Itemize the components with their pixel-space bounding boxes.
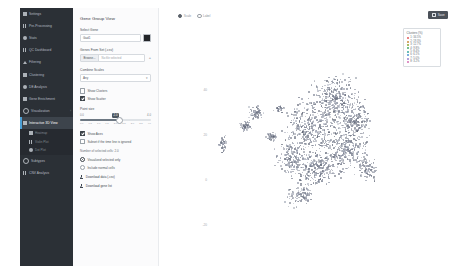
slider-tick: 1.0 xyxy=(97,122,100,125)
sidebar-item-label: Subtypes xyxy=(31,159,45,163)
checkbox-show-clusters-label: Show Clusters xyxy=(87,89,107,93)
eye-icon xyxy=(23,108,29,114)
bars-icon xyxy=(23,24,27,28)
radio-selected-only-label: Visualized selected only xyxy=(87,158,120,162)
flag-icon xyxy=(23,97,27,101)
slider-fill xyxy=(80,119,117,122)
combine-scales-select[interactable]: Any ▾ xyxy=(80,74,151,83)
dot-icon xyxy=(29,148,33,152)
sidebar-item-label: Gene Enrichment xyxy=(29,97,55,101)
combine-scales-value: Any xyxy=(83,76,88,80)
combine-scales-label: Combine Scales xyxy=(80,68,151,72)
checkbox-show-axes[interactable]: Show Axes xyxy=(80,131,151,136)
sidebar-item-label: Interactive 3D View xyxy=(29,121,58,125)
application-window: SettingsPre-ProcessingStatsQC DashboardF… xyxy=(20,8,452,266)
sidebar-item-cnv-analysis[interactable]: CNV Analysis xyxy=(20,167,73,179)
browse-button[interactable]: Browse... xyxy=(81,55,99,62)
checkbox-checked-icon xyxy=(80,96,85,101)
sidebar-item-label: Heatmap xyxy=(35,131,47,135)
gene-set-field: Genes From Set (.csv) Browse... No file … xyxy=(80,48,151,62)
point-size-slider[interactable] xyxy=(80,119,151,122)
sidebar-item-label: Violin Plot xyxy=(35,140,49,144)
add-file-icon[interactable]: + xyxy=(149,55,151,60)
legend-label: 8: 3.2% xyxy=(410,60,419,63)
combine-scales-field: Combine Scales Any ▾ xyxy=(80,68,151,82)
slider-tick: 4.0 xyxy=(148,122,151,125)
legend-item[interactable]: 8: 3.2% xyxy=(407,60,438,63)
sidebar-item-subtypes[interactable]: Subtypes xyxy=(20,155,73,167)
file-name-text: No file selected xyxy=(99,56,121,60)
sidebar-item-label: Dot Plot xyxy=(35,148,46,152)
sidebar-item-settings[interactable]: Settings xyxy=(20,8,73,20)
sidebar-item-label: DE Analysis xyxy=(29,85,47,89)
slider-ticks: 0.00.51.01.52.02.53.03.54.0 xyxy=(80,122,151,125)
point-size-field: Point size 0.0 2.0 4.0 0.00.51.01.52.02.… xyxy=(80,107,151,125)
checkbox-subset[interactable]: Subset if the time line is ignored xyxy=(80,139,151,144)
download-gene-list-button[interactable]: Download gene list xyxy=(80,184,151,188)
download-data-label: Download data (.csv) xyxy=(86,175,115,179)
checkbox-show-scatter[interactable]: Show Scatter xyxy=(80,96,151,101)
sidebar-item-stats[interactable]: Stats xyxy=(20,32,73,44)
cube-icon xyxy=(23,121,27,125)
sidebar-item-filtering[interactable]: Filtering xyxy=(20,56,73,68)
scatter-plot-area[interactable]: ScaleLabel Save 40200-20 Clusters (%) 1:… xyxy=(159,8,452,266)
point-size-max: 4.0 xyxy=(147,113,151,118)
radio-include-normal[interactable]: Include normal cells xyxy=(80,165,151,170)
sidebar-item-visualization[interactable]: Visualization› xyxy=(20,105,73,117)
select-gene-input[interactable]: Gad1 xyxy=(80,34,141,42)
user-icon xyxy=(23,36,27,40)
slider-tick: 3.5 xyxy=(139,122,142,125)
control-panel: Gene Group View Select Gene Gad1 Genes F… xyxy=(73,8,159,266)
sidebar-item-clustering[interactable]: Clustering xyxy=(20,68,73,80)
download-icon xyxy=(80,175,83,179)
selected-count-note: Number of selected cells: 2.0 xyxy=(80,149,151,153)
ring-icon xyxy=(23,158,29,164)
grid-icon xyxy=(23,73,27,77)
sidebar-item-qc-dashboard[interactable]: QC Dashboard xyxy=(20,44,73,56)
panel-title: Gene Group View xyxy=(80,16,151,21)
sidebar-item-de-analysis[interactable]: DE Analysis xyxy=(20,81,73,93)
sidebar-item-label: CNV Analysis xyxy=(29,171,49,175)
sidebar-item-pre-processing[interactable]: Pre-Processing xyxy=(20,20,73,32)
radio-selected-only[interactable]: Visualized selected only xyxy=(80,157,151,162)
legend-color-dot xyxy=(407,58,409,60)
slider-tick: 1.5 xyxy=(105,122,108,125)
sidebar-item-heatmap[interactable]: Heatmap xyxy=(20,129,73,138)
legend-title: Clusters (%) xyxy=(407,31,438,35)
select-gene-label: Select Gene xyxy=(80,28,151,32)
point-size-min: 0.0 xyxy=(80,113,84,118)
gene-color-swatch[interactable] xyxy=(143,34,152,43)
sidebar-item-label: Pre-Processing xyxy=(29,24,52,28)
filter-icon xyxy=(23,61,27,64)
sidebar-item-dot-plot[interactable]: Dot Plot xyxy=(20,146,73,155)
sidebar-item-label: QC Dashboard xyxy=(29,48,51,52)
checkbox-subset-label: Subset if the time line is ignored xyxy=(87,140,131,144)
radio-checked-icon xyxy=(80,157,85,162)
cluster-legend: Clusters (%) 1: 34.5%2: 19.3%3: 12.7%4: … xyxy=(403,28,441,67)
slider-handle[interactable] xyxy=(116,117,123,124)
legend-color-dot xyxy=(407,51,409,53)
sidebar-item-interactive-3d-view[interactable]: Interactive 3D View xyxy=(20,117,73,129)
sidebar-item-label: Stats xyxy=(29,36,37,40)
sidebar-item-label: Clustering xyxy=(29,73,44,77)
download-gene-list-label: Download gene list xyxy=(86,184,112,188)
legend-color-dot xyxy=(407,54,409,56)
point-size-label: Point size xyxy=(80,107,151,111)
sidebar-item-violin-plot[interactable]: Violin Plot xyxy=(20,138,73,147)
chart-icon xyxy=(23,48,27,52)
chevron-down-icon: ▾ xyxy=(146,77,148,80)
download-data-button[interactable]: Download data (.csv) xyxy=(80,175,151,179)
grid-icon xyxy=(29,131,33,135)
checkbox-show-axes-label: Show Axes xyxy=(87,132,102,136)
checkbox-show-clusters[interactable]: Show Clusters xyxy=(80,88,151,93)
checkbox-show-scatter-label: Show Scatter xyxy=(87,97,105,101)
gene-set-file-input[interactable]: Browse... No file selected xyxy=(80,54,145,63)
sidebar-item-gene-enrichment[interactable]: Gene Enrichment xyxy=(20,93,73,105)
radio-include-normal-label: Include normal cells xyxy=(87,166,114,170)
checkbox-icon xyxy=(80,88,85,93)
bars-icon xyxy=(23,171,27,175)
radio-icon xyxy=(80,165,85,170)
sidebar: SettingsPre-ProcessingStatsQC DashboardF… xyxy=(20,8,73,266)
gene-set-label: Genes From Set (.csv) xyxy=(80,48,151,52)
checkbox-checked-icon xyxy=(80,131,85,136)
